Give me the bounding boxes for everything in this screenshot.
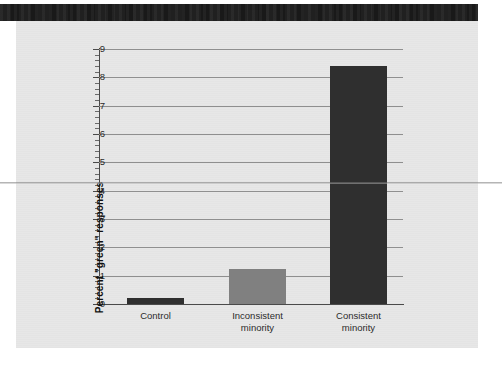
x-tick-label-inconsistent-minority: Inconsistentminority [207,310,308,333]
y-tick-label-7: 7 [85,101,105,111]
bar-body [127,298,184,304]
x-tick-label-consistent-minority: Consistentminority [308,310,409,333]
x-axis-line [99,304,404,305]
y-axis-title: Percent "green" responses [94,163,105,333]
y-axis-title-host: Percent "green" responses [58,100,72,230]
plot-area [99,49,403,304]
scan-seam-line-secondary [0,183,502,184]
bars-group [99,49,403,304]
bar-control [127,298,184,304]
page-canvas: 0123456789 Percent "green" responses Con… [0,0,502,367]
x-tick-label-control: Control [105,310,206,322]
bar-body [229,269,286,304]
bar-inconsistent-minority [229,269,286,304]
y-tick-label-9: 9 [85,44,105,54]
y-tick-label-8: 8 [85,72,105,82]
y-tick-label-6: 6 [85,129,105,139]
bar-body [330,66,387,304]
bar-consistent-minority [330,66,387,304]
